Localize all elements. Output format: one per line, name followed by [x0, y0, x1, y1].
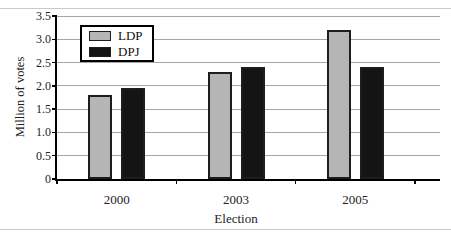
legend-label-ldp: LDP [118, 29, 143, 42]
bar-chart-figure: Million of votes LDP DPJ Election 00.51.… [0, 0, 451, 236]
bar-dpj-2000 [121, 88, 145, 179]
bar-dpj-2003 [241, 67, 265, 179]
bar-ldp-2000 [88, 95, 112, 179]
y-tick-label: 0.5 [19, 149, 51, 163]
gridline [57, 16, 440, 17]
bar-dpj-2005 [360, 67, 384, 179]
x-axis-title: Election [176, 211, 296, 227]
dpj-swatch-icon [89, 47, 111, 57]
y-axis-line [55, 16, 57, 181]
y-tick-label: 1.0 [19, 125, 51, 139]
bottom-rule [0, 229, 451, 230]
legend-item-dpj: DPJ [89, 45, 152, 58]
y-tick-label: 1.5 [19, 102, 51, 116]
y-tick-label: 2.5 [19, 56, 51, 70]
x-axis-line [55, 179, 440, 181]
legend: LDP DPJ [80, 25, 154, 62]
legend-label-dpj: DPJ [118, 45, 140, 58]
y-tick-label: 2.0 [19, 79, 51, 93]
y-tick-label: 3.5 [19, 9, 51, 23]
bar-ldp-2005 [327, 30, 351, 179]
y-tick-label: 0 [19, 172, 51, 186]
ldp-swatch-icon [89, 31, 111, 41]
top-rule [0, 8, 451, 9]
x-category-label: 2000 [82, 192, 152, 208]
x-category-label: 2003 [201, 192, 271, 208]
bar-ldp-2003 [208, 72, 232, 179]
y-tick-label: 3.0 [19, 32, 51, 46]
x-category-label: 2005 [320, 192, 390, 208]
legend-item-ldp: LDP [89, 29, 152, 42]
gridline [57, 62, 440, 63]
